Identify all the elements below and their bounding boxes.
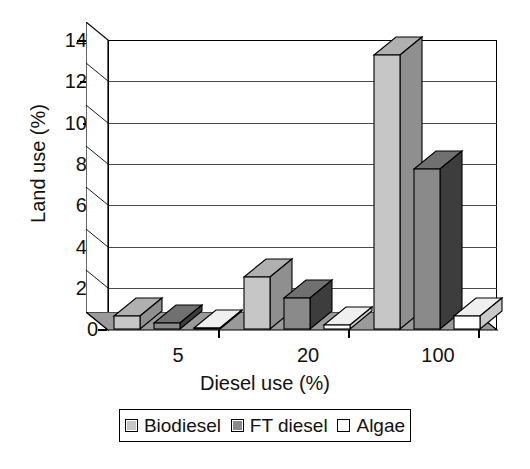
legend-label-biodiesel: Biodiesel xyxy=(144,415,221,437)
x-tick-mark-100 xyxy=(478,330,480,338)
legend-item-algae[interactable]: Algae xyxy=(337,415,405,437)
square-swatch-icon xyxy=(125,419,138,432)
square-swatch-icon xyxy=(231,419,244,432)
legend-label-algae: Algae xyxy=(356,415,405,437)
legend-item-ft-diesel[interactable]: FT diesel xyxy=(231,415,328,437)
gridline-100 xyxy=(108,123,497,124)
square-swatch-icon xyxy=(337,419,350,432)
chart-figure: Land use (%) 140 120 100 80 60 40 20 0 xyxy=(0,0,530,469)
x-tick-label-20: 20 xyxy=(268,344,348,367)
legend-item-biodiesel[interactable]: Biodiesel xyxy=(125,415,221,437)
x-tick-mark-5 xyxy=(218,330,220,338)
legend-label-ft-diesel: FT diesel xyxy=(250,415,328,437)
x-tick-mark-20 xyxy=(348,330,350,338)
plot-side-wall xyxy=(86,22,108,312)
x-tick-label-100: 100 xyxy=(398,344,478,367)
chart-legend: Biodiesel FT diesel Algae xyxy=(119,409,411,442)
x-axis-title: Diesel use (%) xyxy=(0,372,530,395)
plot-area xyxy=(108,40,497,330)
gridline-120 xyxy=(108,81,497,82)
y-tick-mark-140 xyxy=(77,40,86,42)
x-tick-label-5: 5 xyxy=(138,344,218,367)
